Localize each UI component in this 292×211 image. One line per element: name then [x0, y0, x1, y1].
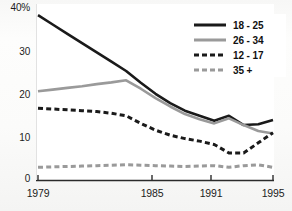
legend-swatch-35-plus-icon [194, 64, 226, 76]
legend-label-26-34: 26 - 34 [233, 35, 263, 46]
legend-item-26-34[interactable]: 26 - 34 [194, 33, 263, 47]
series-line-35- [38, 165, 273, 168]
legend: 18 - 25 26 - 34 12 - 17 35 + [186, 14, 286, 77]
series-line-26-34 [38, 80, 273, 133]
legend-swatch-26-34-icon [194, 34, 226, 46]
legend-swatch-12-17-icon [194, 49, 226, 61]
legend-label-35-plus: 35 + [233, 65, 252, 76]
line-chart: 40% 30 20 10 0 1979 1985 1991 1995 18 - … [0, 0, 292, 211]
legend-item-12-17[interactable]: 12 - 17 [194, 48, 263, 62]
legend-label-12-17: 12 - 17 [233, 50, 263, 61]
series-line-12-17 [38, 108, 273, 153]
legend-item-35-plus[interactable]: 35 + [194, 63, 252, 77]
legend-item-18-25[interactable]: 18 - 25 [194, 18, 263, 32]
legend-swatch-18-25-icon [194, 19, 226, 31]
legend-label-18-25: 18 - 25 [233, 20, 263, 31]
